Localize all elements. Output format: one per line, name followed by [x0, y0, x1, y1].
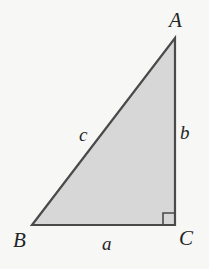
vertex-label-b: B	[13, 230, 26, 251]
vertex-label-a: A	[169, 10, 182, 31]
vertex-label-c: C	[179, 228, 193, 249]
side-label-a: a	[102, 234, 112, 253]
triangle-polygon	[32, 38, 175, 225]
triangle-shape	[0, 0, 209, 269]
right-triangle-figure: A B C a b c	[0, 0, 209, 269]
side-label-b: b	[180, 123, 190, 142]
side-label-c: c	[79, 125, 87, 144]
